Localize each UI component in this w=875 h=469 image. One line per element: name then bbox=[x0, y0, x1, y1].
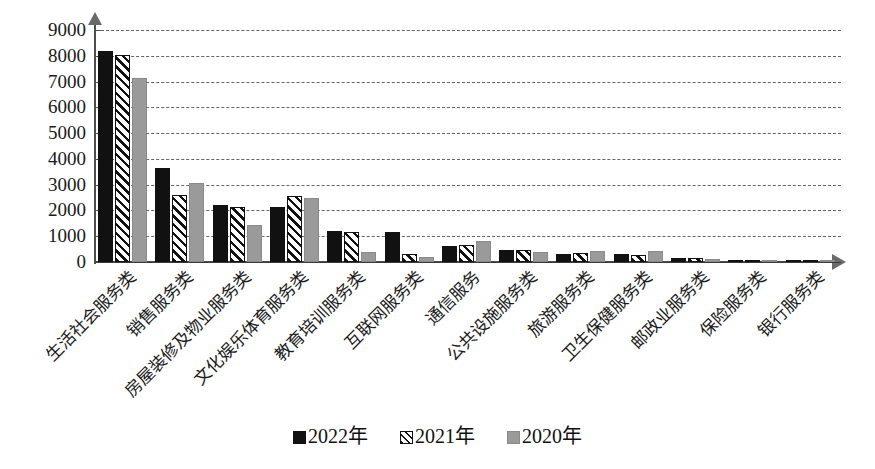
bar-group bbox=[98, 30, 148, 262]
bar-2020 bbox=[132, 78, 147, 262]
bar-chart: 9000800070006000500040003000200010000 生活… bbox=[0, 0, 875, 469]
y-axis-tick-label: 3000 bbox=[0, 175, 86, 194]
legend-item[interactable]: 2022年 bbox=[293, 420, 368, 449]
y-axis-tick-label: 4000 bbox=[0, 149, 86, 168]
category-label-text: 生活社会服务类 bbox=[43, 268, 140, 365]
bar-2021 bbox=[745, 260, 760, 262]
bar-2021 bbox=[573, 253, 588, 262]
solid-black-square-icon bbox=[293, 431, 306, 444]
legend-label: 2020年 bbox=[522, 425, 582, 447]
legend-label: 2021年 bbox=[415, 425, 475, 447]
y-axis-arrow-icon bbox=[88, 12, 102, 25]
y-axis-tick-label: 9000 bbox=[0, 20, 86, 39]
bar-2021 bbox=[459, 245, 474, 262]
y-axis-tick-label: 1000 bbox=[0, 226, 86, 245]
bar-2021 bbox=[631, 255, 646, 262]
chart-legend: 2022年2021年2020年 bbox=[0, 420, 875, 449]
gray-square-icon bbox=[507, 431, 520, 444]
bar-2021 bbox=[803, 260, 818, 262]
bar-2021 bbox=[516, 250, 531, 262]
y-axis-tick-label: 2000 bbox=[0, 200, 86, 219]
bar-2021 bbox=[115, 55, 130, 263]
y-axis-tick-label: 0 bbox=[0, 252, 86, 271]
y-axis-tick-label: 5000 bbox=[0, 123, 86, 142]
hatched-square-icon bbox=[400, 431, 413, 444]
y-axis-tick-label: 6000 bbox=[0, 97, 86, 116]
y-axis-tick-label: 7000 bbox=[0, 72, 86, 91]
bar-2021 bbox=[688, 258, 703, 262]
bar-2022 bbox=[98, 51, 113, 262]
bar-2021 bbox=[402, 254, 417, 262]
legend-item[interactable]: 2021年 bbox=[400, 420, 475, 449]
legend-item[interactable]: 2020年 bbox=[507, 420, 582, 449]
legend-label: 2022年 bbox=[308, 425, 368, 447]
y-axis-tick-label: 8000 bbox=[0, 46, 86, 65]
